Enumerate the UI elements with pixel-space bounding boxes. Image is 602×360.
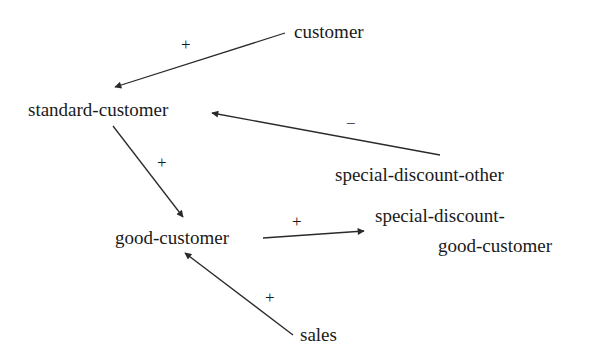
edge-good-to-special-good	[263, 231, 364, 238]
edges-layer	[0, 0, 602, 360]
edge-sales-to-good	[185, 253, 293, 335]
node-sales: sales	[300, 324, 337, 346]
node-special-discount-other: special-discount-other	[335, 164, 504, 186]
node-special-discount-good-customer-line2: good-customer	[438, 235, 552, 257]
node-good-customer: good-customer	[115, 227, 229, 249]
edge-customer-to-standard	[115, 33, 285, 87]
sign-customer-standard: +	[181, 36, 191, 54]
influence-diagram: customer standard-customer special-disco…	[0, 0, 602, 360]
sign-sales-good: +	[265, 289, 275, 307]
sign-special-other-standard: −	[346, 115, 356, 133]
edge-standard-to-good	[113, 126, 183, 217]
sign-good-special-good: +	[292, 213, 302, 231]
node-standard-customer: standard-customer	[28, 99, 168, 121]
node-special-discount-good-customer-line1: special-discount-	[375, 205, 505, 227]
node-customer: customer	[294, 21, 364, 43]
sign-standard-good: +	[157, 154, 167, 172]
edge-special-other-to-standard	[212, 113, 440, 155]
